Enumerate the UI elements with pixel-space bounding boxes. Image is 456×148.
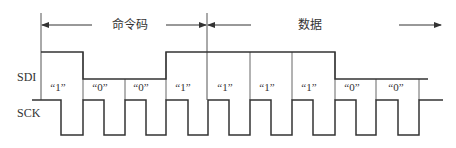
command-code-span: 命令码 bbox=[42, 17, 206, 32]
bit-label: “0” bbox=[133, 81, 148, 93]
bit-label: “1” bbox=[217, 81, 232, 93]
timing-diagram: 命令码 数据 SDI SCK “1” “0” “0” “1” “1” “1” “… bbox=[0, 0, 456, 148]
signal-label-sdi: SDI bbox=[17, 70, 36, 84]
sck-waveform bbox=[32, 100, 443, 135]
bit-label: “0” bbox=[92, 81, 107, 93]
data-span: 数据 bbox=[208, 17, 441, 32]
section-label-data: 数据 bbox=[298, 17, 322, 32]
bit-label: “1” bbox=[259, 81, 274, 93]
bit-label: “1” bbox=[175, 81, 190, 93]
bit-label: “1” bbox=[301, 81, 316, 93]
sdi-waveform bbox=[41, 52, 428, 79]
bit-label: “0” bbox=[388, 81, 403, 93]
bit-labels: “1” “0” “0” “1” “1” “1” “1” “0” “0” bbox=[50, 81, 403, 93]
bit-label: “0” bbox=[344, 81, 359, 93]
signal-label-sck: SCK bbox=[17, 106, 41, 120]
section-label-command: 命令码 bbox=[112, 17, 148, 32]
bit-label: “1” bbox=[50, 81, 65, 93]
